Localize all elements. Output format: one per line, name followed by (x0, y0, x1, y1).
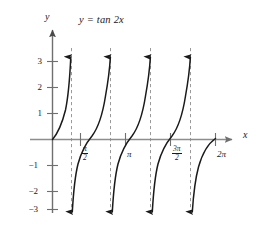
x-tick-label-2pi: 2π (217, 150, 226, 159)
y-tick-label-3: 3 (26, 57, 42, 66)
x-tick-label-pi-over-2: π 2 (82, 145, 88, 162)
tangent-function-graph: y = tan 2x y x 3 2 1 −1 −2 −3 π 2 π 3π 2… (0, 0, 262, 233)
x-tick-label-pi: π (127, 150, 132, 159)
y-axis-label: y (45, 12, 49, 22)
fraction-pi-over-2: π 2 (82, 145, 88, 162)
x-axis-label: x (243, 130, 247, 140)
y-tick-label-neg-3: −3 (22, 205, 38, 214)
tangent-branch-0 (53, 57, 71, 140)
tangent-branch-4 (192, 139, 215, 213)
y-tick-label-2: 2 (26, 83, 42, 92)
fraction-3pi-over-2: 3π 2 (172, 145, 182, 162)
tangent-branch-3 (152, 57, 190, 212)
tangent-branch-2 (112, 57, 150, 212)
curve-group (53, 57, 216, 212)
tangent-branch-1 (72, 57, 110, 212)
chart-title: y = tan 2x (79, 15, 124, 26)
y-axis (47, 30, 58, 213)
asymptote-group (72, 48, 191, 213)
y-tick-label-neg-1: −1 (22, 161, 38, 170)
y-tick-label-1: 1 (26, 109, 42, 118)
y-tick-label-neg-2: −2 (22, 187, 38, 196)
x-tick-label-3pi-over-2: 3π 2 (172, 145, 182, 162)
x-axis (30, 133, 232, 146)
